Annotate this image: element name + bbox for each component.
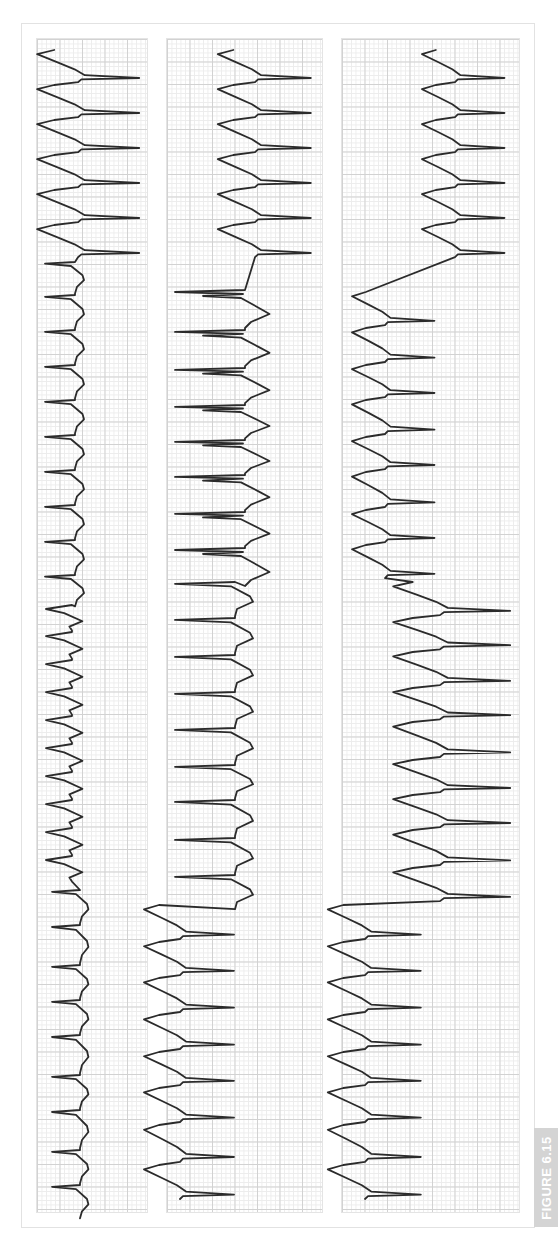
figure-label: FIGURE 6.15 [539, 1136, 554, 1220]
ecg-strip-1 [36, 38, 148, 1213]
ecg-strip-3 [341, 38, 520, 1213]
ecg-strip-2 [166, 38, 323, 1213]
figure-label-box: FIGURE 6.15 [534, 1128, 558, 1227]
